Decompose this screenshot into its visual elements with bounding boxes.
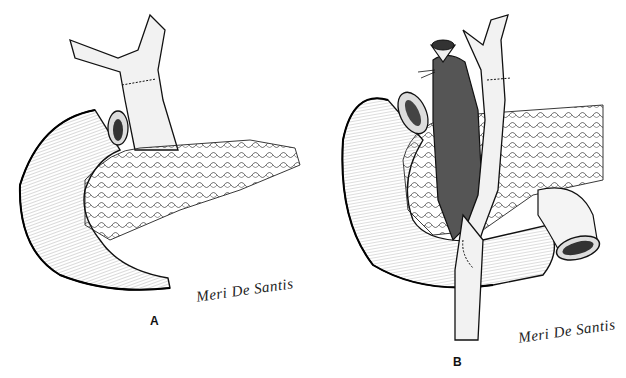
panel-label: A: [150, 314, 159, 328]
panel-label: B: [453, 355, 462, 369]
figure-panel-a: A Meri De Santis: [0, 0, 313, 378]
figure-panel-b: B Meri De Santis: [313, 0, 626, 378]
pancreas: [85, 140, 300, 240]
